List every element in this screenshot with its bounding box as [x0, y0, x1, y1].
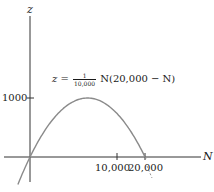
equation-label: z = 1 10,000 N(20,000 − N) — [52, 72, 175, 87]
z-axis-label: z — [27, 3, 33, 16]
eq-fraction: 1 10,000 — [73, 72, 96, 87]
eq-equals: = — [60, 73, 68, 84]
eq-frac-den: 10,000 — [73, 80, 96, 87]
eq-frac-num: 1 — [73, 72, 96, 80]
tick-label-20000: 20,000 — [128, 162, 163, 173]
tick-label-1000: 1000 — [2, 92, 27, 103]
eq-rhs: N(20,000 − N) — [100, 73, 175, 84]
n-axis-label: N — [203, 150, 213, 163]
eq-lhs: z — [52, 73, 57, 84]
tick-label-10000: 10,000 — [95, 162, 130, 173]
